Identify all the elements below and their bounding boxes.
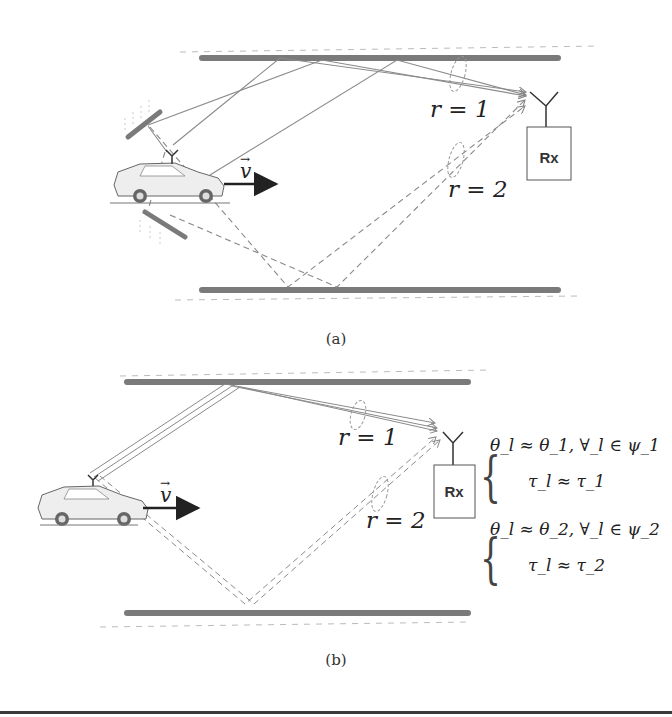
rx-label-b: Rx — [444, 483, 464, 500]
multipath-diagram: v → Rx r = 1 r = 2 (a) — [0, 0, 672, 717]
scatterer-upper — [128, 112, 160, 137]
rx-antenna-icon-b — [443, 432, 463, 465]
svg-text:→: → — [240, 152, 250, 166]
eq2-line1: θ_l ≈ θ_2, ∀_l ∈ ψ_2 — [490, 519, 660, 539]
panel-b: v → Rx r = 1 r = 2 { { θ_l ≈ θ_1, ∀_l ∈ … — [38, 370, 660, 627]
caption-a: (a) — [326, 330, 347, 348]
eq2-line2: τ_l ≈ τ_2 — [528, 555, 605, 575]
rx-label: Rx — [539, 149, 559, 166]
cluster-label-r1-b: r = 1 — [338, 424, 398, 450]
svg-text:→: → — [160, 476, 170, 490]
eq1-line2: τ_l ≈ τ_1 — [528, 471, 605, 491]
eq1-line1: θ_l ≈ θ_1, ∀_l ∈ ψ_1 — [490, 435, 660, 455]
scatterer-lower — [145, 212, 185, 237]
tx-antenna-icon-b — [88, 475, 98, 486]
cluster-label-r2-b: r = 2 — [366, 507, 426, 533]
page-divider — [0, 711, 672, 714]
vehicle-icon-b — [38, 486, 148, 526]
cluster-label-r2: r = 2 — [448, 176, 508, 202]
caption-b: (b) — [325, 651, 346, 669]
equations: { { θ_l ≈ θ_1, ∀_l ∈ ψ_1 τ_l ≈ τ_1 θ_l ≈… — [480, 435, 660, 590]
rx-antenna-icon — [530, 92, 558, 127]
panel-a: v → Rx r = 1 r = 2 — [110, 46, 600, 300]
cluster-label-r1: r = 1 — [430, 96, 490, 122]
vehicle-icon — [110, 163, 230, 203]
